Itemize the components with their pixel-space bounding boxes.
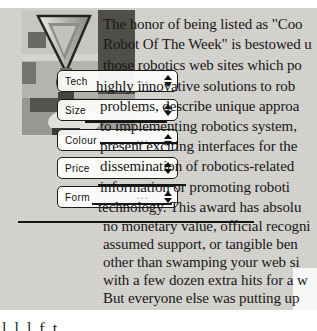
dropdown-label: Size [65,105,86,116]
text-line: information or promoting roboti [100,178,290,197]
text-line: present exciting interfaces for the [100,137,297,156]
strike-line [18,221,254,223]
text-line: But everyone else was putting up [103,289,299,308]
text-line: The honor of being listed as "Coo [103,15,302,34]
text-line: those robotics web sites which po [103,56,302,75]
strike-line [85,121,167,123]
text-line: with a few dozen extra hits for a w [103,271,308,290]
text-line: no monetary value, official recogni [103,217,310,236]
text-line: highly innovative solutions to rob [96,77,295,96]
dropdown-label: Tech [65,76,88,87]
text-line: dissemination of robotics-related [100,157,294,176]
dropdown-label: Form [65,192,90,203]
text-line: to implementing robotics system, [100,117,297,136]
text-line: assumed support, or tangible ben [103,235,298,254]
dropdown-label: Price [65,163,90,174]
strike-line [100,142,178,144]
clipped-text-fragments: l l l f t [2,320,142,331]
text-line: technology. This award has absolu [98,198,301,217]
text-line: Robot Of The Week" is bestowed u [103,35,312,54]
text-line: other than swamping your web si [103,253,299,272]
dropdown-label: Colour [65,135,97,146]
strike-line [98,184,186,186]
text-line: problems, describe unique approa [100,97,299,116]
strike-line [92,203,172,205]
